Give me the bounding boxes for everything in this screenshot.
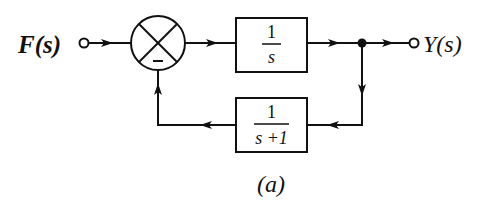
output-label: Y(s) xyxy=(423,31,462,57)
feedback-numerator: 1 xyxy=(267,102,276,122)
feedback-path-left xyxy=(158,70,236,126)
summing-junction xyxy=(131,16,185,70)
forward-block: 1 s xyxy=(236,18,307,72)
input-terminal xyxy=(80,39,89,48)
output-terminal xyxy=(410,39,419,48)
forward-numerator: 1 xyxy=(267,22,276,42)
figure-caption: (a) xyxy=(257,171,285,197)
feedback-denominator: s +1 xyxy=(255,128,288,148)
feedback-block: 1 s +1 xyxy=(236,98,307,152)
forward-denominator: s xyxy=(268,47,275,67)
input-label: F(s) xyxy=(17,31,61,59)
feedback-path-right xyxy=(307,43,363,125)
block-diagram: F(s) 1 s Y(s) xyxy=(0,0,488,205)
